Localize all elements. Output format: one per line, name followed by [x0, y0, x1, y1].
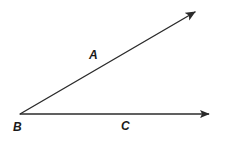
point-label-b: B: [13, 121, 22, 133]
angle-diagram-canvas: [0, 0, 233, 142]
point-label-a: A: [89, 49, 98, 61]
angle-diagram-figure: A B C: [0, 0, 233, 142]
point-label-c: C: [121, 120, 130, 132]
ray-ba-line: [20, 12, 195, 114]
